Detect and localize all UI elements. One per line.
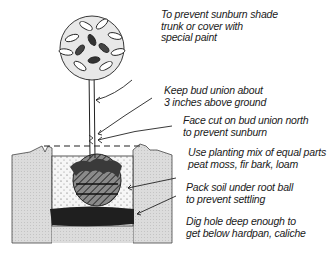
annotation-dig-hole: Dig hole deep enough to get below hardpa… (186, 216, 306, 239)
annotation-bud-union-height: Keep bud union about 3 inches above grou… (164, 85, 266, 108)
hardpan-layer (50, 207, 134, 227)
annotation-pack-soil: Pack soil under root ball to prevent set… (186, 182, 293, 205)
tree-planting-diagram: To prevent sunburn shade trunk or cover … (0, 0, 331, 261)
annotation-planting-mix: Use planting mix of equal parts peat mos… (188, 147, 326, 170)
annotation-bud-union-north: Face cut on bud union north to prevent s… (183, 115, 308, 138)
annotation-sunburn-shade: To prevent sunburn shade trunk or cover … (161, 9, 278, 44)
tree-canopy (59, 16, 126, 80)
tree-trunk (89, 70, 95, 158)
